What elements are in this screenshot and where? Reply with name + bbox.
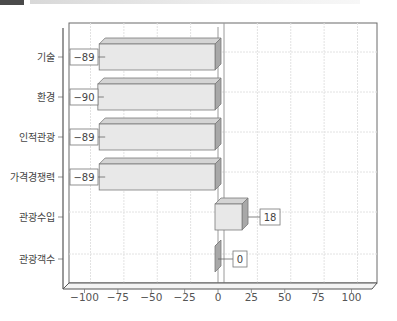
category-label: 인적관광 <box>19 132 55 143</box>
category-label: 관광객수 <box>19 254 55 265</box>
category-label: 관광수입 <box>19 211 55 223</box>
bar-관광수입 <box>215 198 248 230</box>
value-label: −90 <box>73 92 94 103</box>
bar-front-face <box>98 84 215 110</box>
bar-side-face <box>215 158 221 190</box>
category-label: 환경 <box>37 91 55 103</box>
category-label: 기술 <box>37 52 55 63</box>
bar-환경 <box>98 78 221 110</box>
bar-가격경쟁력 <box>99 158 221 190</box>
bar-front-face <box>99 44 215 70</box>
bar-front-face <box>99 164 215 190</box>
bar-top-face <box>98 78 221 84</box>
x-tick-label: −75 <box>107 291 129 303</box>
bar-side-face <box>215 78 221 110</box>
value-label: −89 <box>73 172 94 183</box>
x-tick-label: 100 <box>341 291 361 303</box>
bar-인적관광 <box>99 118 221 150</box>
x-axis-floor <box>63 283 377 289</box>
x-tick-label: 50 <box>278 291 291 303</box>
x-tick-label: 75 <box>311 291 324 303</box>
bar-side-face <box>215 38 221 70</box>
bar-top-face <box>99 158 221 164</box>
bar-top-face <box>99 118 221 124</box>
value-label: 18 <box>264 212 277 223</box>
bar-chart: −89기술−90환경−89인적관광−89가격경쟁력18관광수입0관광객수−100… <box>0 0 397 321</box>
bar-관광객수 <box>215 240 221 272</box>
x-tick-label: 25 <box>245 291 258 303</box>
bar-기술 <box>99 38 221 70</box>
bar-top-face <box>99 38 221 44</box>
x-tick-label: −100 <box>70 291 99 303</box>
bar-side-face <box>215 240 221 272</box>
x-tick-label: −25 <box>174 291 196 303</box>
bar-side-face <box>242 198 248 230</box>
bar-front-face <box>215 204 242 230</box>
bar-side-face <box>215 118 221 150</box>
x-tick-label: −50 <box>140 291 162 303</box>
category-label: 가격경쟁력 <box>10 171 55 183</box>
x-tick-label: 0 <box>215 291 222 303</box>
value-label: −89 <box>73 52 94 63</box>
value-label: 0 <box>237 254 243 265</box>
bar-front-face <box>99 124 215 150</box>
value-label: −89 <box>73 132 94 143</box>
